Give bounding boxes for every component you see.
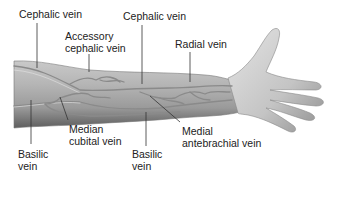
label-median-cubital-vein: Median cubital vein [69, 123, 122, 147]
hand-shape [228, 28, 323, 132]
label-basilic-vein-forearm: Basilic vein [132, 148, 162, 172]
label-radial-vein: Radial vein [175, 38, 227, 50]
forearm-shape [14, 61, 240, 128]
label-medial-antebrachial-vein: Medial antebrachial vein [182, 125, 261, 149]
label-cephalic-vein-forearm: Cephalic vein [123, 10, 186, 22]
vein-diagram: Cephalic vein Accessory cephalic vein Ce… [0, 0, 342, 197]
label-accessory-cephalic-vein: Accessory cephalic vein [65, 30, 126, 54]
label-cephalic-vein-upper: Cephalic vein [19, 8, 82, 20]
arm-illustration [0, 0, 342, 197]
label-basilic-vein-upper: Basilic vein [18, 148, 48, 172]
